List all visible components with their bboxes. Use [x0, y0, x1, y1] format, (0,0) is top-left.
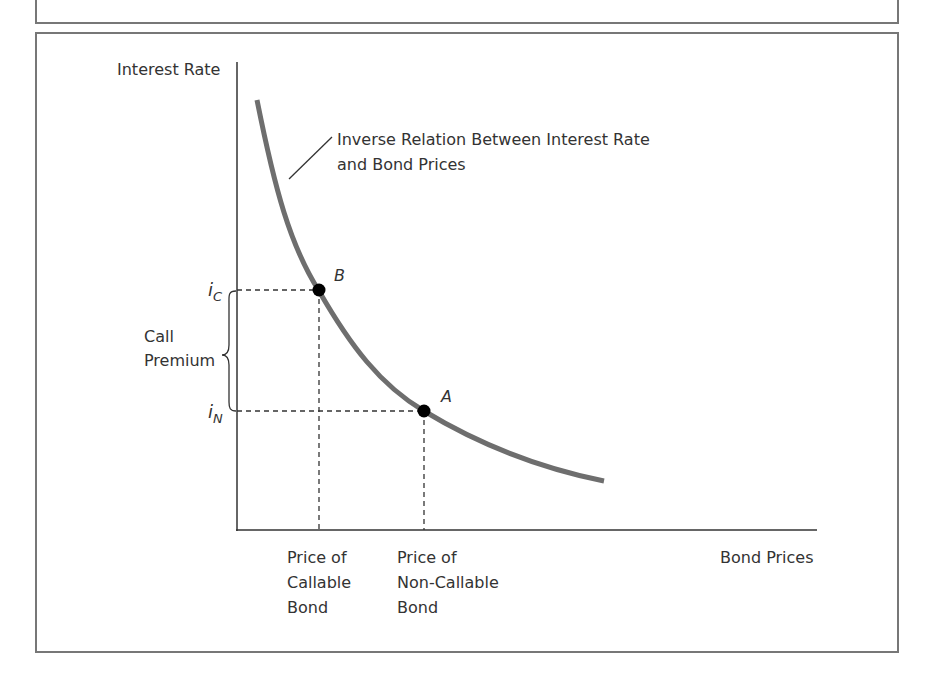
call-premium-line2: Premium	[144, 349, 215, 373]
point-a-marker	[418, 405, 431, 418]
ic-label: iC	[208, 278, 222, 309]
noncallable-label-line3: Bond	[397, 596, 438, 620]
callable-label-line2: Callable	[287, 571, 351, 595]
noncallable-label-line2: Non-Callable	[397, 571, 499, 595]
point-a-label: A	[441, 385, 452, 409]
callable-label-line3: Bond	[287, 596, 328, 620]
in-label: iN	[208, 400, 223, 431]
in-subscript: N	[213, 411, 223, 426]
call-premium-brace-icon	[222, 291, 236, 411]
curve-label-line2: and Bond Prices	[337, 153, 466, 177]
curve-leader-line	[289, 137, 332, 179]
call-premium-line1: Call	[144, 325, 174, 349]
noncallable-label-line1: Price of	[397, 546, 457, 570]
y-axis-label: Interest Rate	[117, 58, 220, 82]
point-b-label: B	[334, 264, 345, 288]
curve-label-line1: Inverse Relation Between Interest Rate	[337, 128, 650, 152]
callable-label-line1: Price of	[287, 546, 347, 570]
x-axis-label: Bond Prices	[720, 546, 814, 570]
point-b-marker	[313, 284, 326, 297]
ic-subscript: C	[213, 289, 222, 304]
